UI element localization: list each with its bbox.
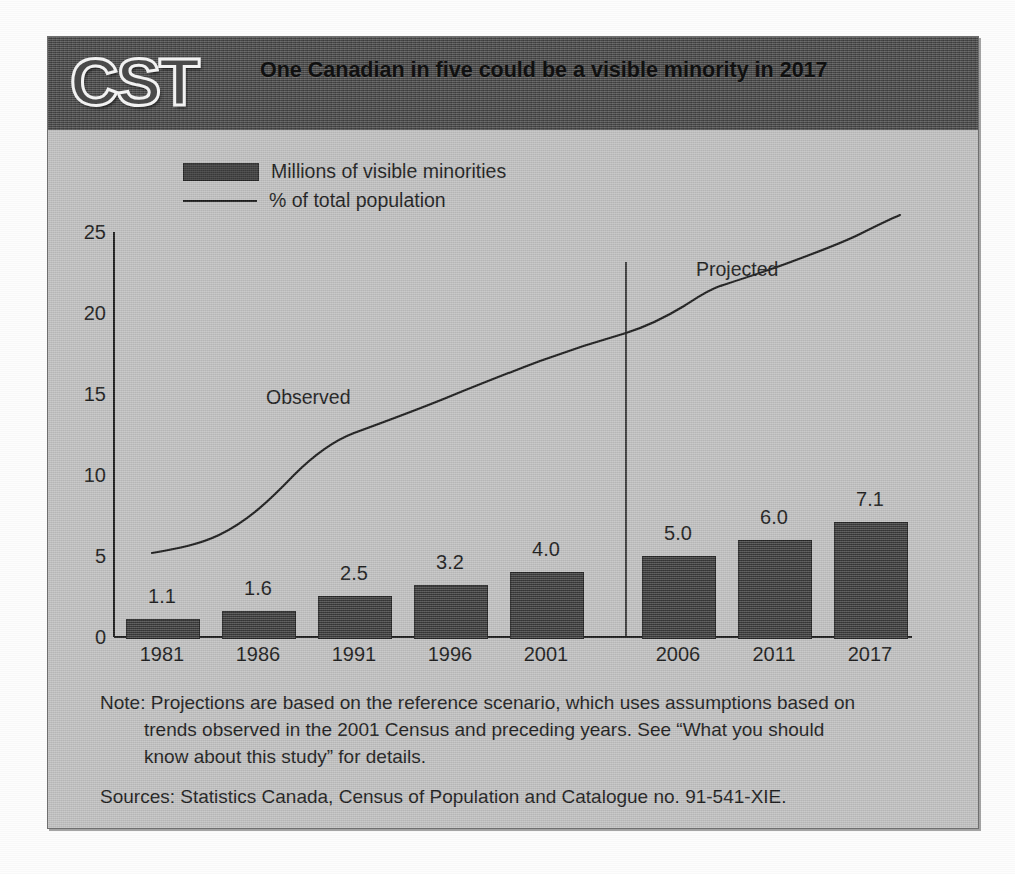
bar-value-1996: 3.2 bbox=[436, 551, 464, 574]
bar-1996 bbox=[414, 585, 488, 639]
legend-swatch-bar-icon bbox=[183, 163, 259, 181]
note-line-1: Note: Projections are based on the refer… bbox=[100, 690, 945, 717]
bar-2006 bbox=[642, 556, 716, 639]
chart-legend: Millions of visible minorities % of tota… bbox=[183, 157, 506, 215]
annotation-observed: Observed bbox=[266, 386, 351, 409]
x-tick-1981: 1981 bbox=[140, 643, 185, 666]
bar-value-1986: 1.6 bbox=[244, 577, 272, 600]
annotation-projected: Projected bbox=[696, 258, 778, 281]
legend-swatch-line-icon bbox=[183, 200, 257, 202]
note-line-2: trends observed in the 2001 Census and p… bbox=[100, 717, 945, 744]
bar-2017 bbox=[834, 522, 908, 639]
bar-2011 bbox=[738, 540, 812, 639]
y-tick-15: 15 bbox=[60, 383, 106, 406]
bar-value-2006: 5.0 bbox=[664, 522, 692, 545]
x-tick-1996: 1996 bbox=[428, 643, 473, 666]
y-tick-20: 20 bbox=[60, 302, 106, 325]
bar-value-2001: 4.0 bbox=[532, 538, 560, 561]
percent-of-total-population-line bbox=[152, 215, 900, 553]
legend-entry-line: % of total population bbox=[183, 186, 506, 215]
bar-value-2017: 7.1 bbox=[856, 488, 884, 511]
legend-label-bars: Millions of visible minorities bbox=[271, 160, 506, 183]
x-tick-2006: 2006 bbox=[656, 643, 701, 666]
legend-label-line: % of total population bbox=[269, 189, 446, 212]
bar-value-2011: 6.0 bbox=[760, 506, 788, 529]
x-tick-1986: 1986 bbox=[236, 643, 281, 666]
note-text-1: Projections are based on the reference s… bbox=[151, 692, 855, 713]
note-label: Note: bbox=[100, 692, 145, 713]
scanned-page: CST One Canadian in five could be a visi… bbox=[0, 0, 1015, 874]
x-tick-1991: 1991 bbox=[332, 643, 377, 666]
page-title: One Canadian in five could be a visible … bbox=[260, 56, 920, 84]
y-tick-25: 25 bbox=[60, 221, 106, 244]
sources-line: Sources: Statistics Canada, Census of Po… bbox=[100, 784, 945, 811]
bar-1981 bbox=[126, 619, 200, 639]
y-tick-0: 0 bbox=[60, 626, 106, 649]
note-line-3: know about this study” for details. bbox=[100, 744, 945, 771]
x-tick-2001: 2001 bbox=[524, 643, 569, 666]
legend-entry-bars: Millions of visible minorities bbox=[183, 157, 506, 186]
y-tick-10: 10 bbox=[60, 464, 106, 487]
bar-value-1991: 2.5 bbox=[340, 562, 368, 585]
publication-header: CST One Canadian in five could be a visi… bbox=[48, 37, 978, 130]
bar-1991 bbox=[318, 596, 392, 639]
chart-notes: Note: Projections are based on the refer… bbox=[100, 690, 945, 811]
bar-2001 bbox=[510, 572, 584, 639]
bar-1986 bbox=[222, 611, 296, 639]
x-tick-2017: 2017 bbox=[848, 643, 893, 666]
chart-area: 25 20 15 10 5 0 Millions of visible mino… bbox=[48, 130, 978, 828]
bar-value-1981: 1.1 bbox=[148, 585, 176, 608]
cst-logo: CST bbox=[70, 43, 198, 120]
y-tick-5: 5 bbox=[60, 545, 106, 568]
x-tick-2011: 2011 bbox=[752, 643, 795, 666]
figure-panel: CST One Canadian in five could be a visi… bbox=[47, 36, 979, 829]
